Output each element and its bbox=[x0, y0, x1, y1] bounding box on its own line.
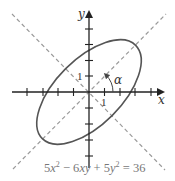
x-tick-label-1: 1 bbox=[101, 96, 107, 108]
ellipse-equation: 5x2 − 6xy + 5y2 = 36 bbox=[44, 160, 145, 175]
y-axis-label: y bbox=[77, 7, 85, 21]
angle-label-alpha: α bbox=[114, 73, 122, 87]
diagram-canvas: α x y 1 1 5x2 − 6xy + 5y2 = 36 bbox=[0, 0, 175, 181]
angle-arc bbox=[106, 75, 113, 92]
y-tick-label-1: 1 bbox=[77, 70, 83, 82]
x-axis-label: x bbox=[158, 93, 165, 107]
